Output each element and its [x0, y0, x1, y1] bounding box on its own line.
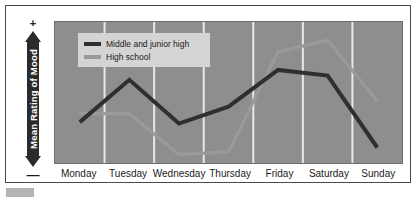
- legend-item-middle-junior-high: Middle and junior high: [84, 37, 204, 50]
- x-axis-label-friday: Friday: [255, 166, 304, 182]
- mood-rating-line-chart-figure: + Mean Rating of Mood — Middle and junio…: [0, 0, 417, 200]
- x-axis-label-wednesday: Wednesday: [153, 166, 206, 182]
- x-axis-label-saturday: Saturday: [304, 166, 353, 182]
- y-axis-positive-sign: +: [18, 18, 48, 28]
- chart-card: + Mean Rating of Mood — Middle and junio…: [5, 5, 411, 183]
- x-axis-label-tuesday: Tuesday: [103, 166, 152, 182]
- scan-artifact: [6, 188, 34, 197]
- x-axis-label-sunday: Sunday: [354, 166, 403, 182]
- y-axis-negative-sign: —: [18, 170, 48, 180]
- legend: Middle and junior high High school: [78, 33, 210, 67]
- x-axis-label-thursday: Thursday: [205, 166, 254, 182]
- y-axis-double-arrow-icon: Mean Rating of Mood: [25, 31, 41, 167]
- series-line-middle-and-junior-high: [80, 70, 377, 148]
- legend-item-high-school: High school: [84, 50, 204, 63]
- x-axis-labels: MondayTuesdayWednesdayThursdayFridaySatu…: [54, 166, 403, 182]
- legend-swatch-high-school: [84, 55, 101, 59]
- legend-swatch-middle-junior-high: [84, 42, 101, 46]
- y-axis-label: Mean Rating of Mood: [28, 49, 39, 149]
- arrow-down-icon: [25, 156, 41, 167]
- y-axis: + Mean Rating of Mood —: [18, 18, 48, 180]
- legend-label-middle-junior-high: Middle and junior high: [106, 39, 189, 49]
- legend-label-high-school: High school: [106, 52, 150, 62]
- x-axis-label-monday: Monday: [54, 166, 103, 182]
